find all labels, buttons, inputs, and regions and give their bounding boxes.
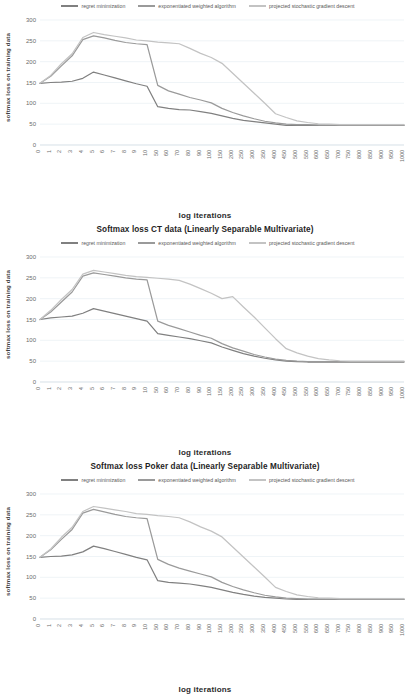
x-tick-label: 7 [110, 624, 116, 627]
x-tick-label: 850 [367, 624, 373, 633]
figure-3: Softmax loss Poker data (Linearly Separa… [0, 457, 410, 694]
legend-1: regret minimization exponentiated weight… [0, 0, 410, 12]
x-tick-label: 250 [238, 387, 244, 396]
x-tick-label: 8 [121, 387, 127, 390]
series-line-projected-stochastic-gradient-descent [40, 507, 404, 599]
x-tick-label: 100 [206, 150, 212, 159]
x-tick-label: 550 [303, 387, 309, 396]
y-tick-label: 0 [33, 616, 37, 622]
x-tick-label: 900 [378, 624, 384, 633]
y-tick-label: 0 [33, 142, 37, 148]
chart-canvas-1: 0501001502002503000123456789105060708090… [0, 12, 410, 210]
x-tick-label: 150 [217, 387, 223, 396]
x-tick-label: 200 [228, 624, 234, 633]
y-tick-label: 150 [26, 80, 37, 86]
legend-item-exponentiated-weighted-algorithm: exponentiated weighted algorithm [138, 240, 236, 246]
x-tick-label: 50 [153, 150, 159, 156]
x-tick-label: 10 [142, 150, 148, 156]
x-tick-label: 9 [131, 387, 137, 390]
x-tick-label: 500 [292, 387, 298, 396]
x-tick-label: 950 [388, 387, 394, 396]
legend-item-exponentiated-weighted-algorithm: exponentiated weighted algorithm [138, 3, 236, 9]
x-tick-label: 2 [56, 387, 62, 390]
series-line-exponentiated-weighted-algorithm [40, 273, 404, 362]
legend-item-projected-stochastic-gradient-descent: projected stochastic gradient descent [249, 240, 355, 246]
x-tick-label: 3 [67, 387, 73, 390]
series-line-exponentiated-weighted-algorithm [40, 509, 404, 599]
x-tick-label: 350 [260, 387, 266, 396]
legend-swatch-regret-minimization [61, 242, 78, 244]
legend-item-projected-stochastic-gradient-descent: projected stochastic gradient descent [249, 477, 355, 483]
series-line-projected-stochastic-gradient-descent [40, 33, 404, 125]
x-tick-label: 4 [78, 150, 84, 153]
y-tick-label: 200 [26, 59, 37, 65]
x-tick-label: 350 [260, 624, 266, 633]
chart-canvas-2: 0501001502002503000123456789105060708090… [0, 249, 410, 447]
x-tick-label: 10 [142, 387, 148, 393]
legend-label-exponentiated-weighted-algorithm: exponentiated weighted algorithm [158, 477, 236, 483]
x-tick-label: 500 [292, 150, 298, 159]
x-tick-label: 60 [163, 150, 169, 156]
x-tick-label: 450 [281, 624, 287, 633]
x-tick-label: 90 [196, 387, 202, 393]
series-line-regret-minimization [40, 72, 404, 125]
series-line-regret-minimization [40, 546, 404, 599]
plot-area-3: softmax loss on training data 0501001502… [0, 486, 410, 684]
x-tick-label: 8 [121, 624, 127, 627]
x-tick-label: 50 [153, 387, 159, 393]
legend-label-regret-minimization: regret minimization [81, 240, 125, 246]
y-tick-label: 50 [29, 121, 36, 127]
x-tick-label: 80 [185, 624, 191, 630]
x-tick-label: 1000 [399, 624, 405, 636]
plot-area-1: softmax loss on training data 0501001502… [0, 12, 410, 210]
y-tick-label: 200 [26, 296, 37, 302]
y-tick-label: 150 [26, 554, 37, 560]
x-tick-label: 800 [356, 387, 362, 396]
x-tick-label: 80 [185, 150, 191, 156]
x-tick-label: 0 [35, 387, 41, 390]
x-tick-label: 0 [35, 624, 41, 627]
x-tick-label: 5 [89, 624, 95, 627]
legend-3: regret minimization exponentiated weight… [0, 474, 410, 486]
x-tick-label: 0 [35, 150, 41, 153]
x-tick-label: 950 [388, 624, 394, 633]
x-tick-label: 600 [313, 624, 319, 633]
x-tick-label: 150 [217, 150, 223, 159]
x-tick-label: 550 [303, 624, 309, 633]
x-tick-label: 650 [324, 150, 330, 159]
legend-label-projected-stochastic-gradient-descent: projected stochastic gradient descent [269, 3, 355, 9]
x-tick-label: 7 [110, 150, 116, 153]
x-tick-label: 550 [303, 150, 309, 159]
x-tick-label: 60 [163, 387, 169, 393]
x-tick-label: 150 [217, 624, 223, 633]
x-tick-label: 300 [249, 150, 255, 159]
x-tick-label: 850 [367, 387, 373, 396]
legend-swatch-exponentiated-weighted-algorithm [138, 242, 155, 244]
x-tick-label: 850 [367, 150, 373, 159]
x-tick-label: 450 [281, 150, 287, 159]
x-tick-label: 750 [345, 150, 351, 159]
x-tick-label: 60 [163, 624, 169, 630]
y-tick-label: 300 [26, 254, 37, 260]
x-tick-label: 400 [271, 624, 277, 633]
x-tick-label: 100 [206, 624, 212, 633]
x-tick-label: 300 [249, 624, 255, 633]
y-tick-label: 50 [29, 595, 36, 601]
y-tick-label: 250 [26, 512, 37, 518]
x-tick-label: 3 [67, 150, 73, 153]
x-tick-label: 800 [356, 624, 362, 633]
legend-label-exponentiated-weighted-algorithm: exponentiated weighted algorithm [158, 240, 236, 246]
x-tick-label: 300 [249, 387, 255, 396]
legend-swatch-regret-minimization [61, 5, 78, 7]
x-tick-label: 10 [142, 624, 148, 630]
y-axis-title-1: softmax loss on training data [2, 12, 13, 142]
plot-area-2: softmax loss on training data 0501001502… [0, 249, 410, 447]
x-tick-label: 1000 [399, 387, 405, 399]
x-tick-label: 700 [335, 624, 341, 633]
legend-swatch-exponentiated-weighted-algorithm [138, 479, 155, 481]
figure-title-2: Softmax loss CT data (Linearly Separable… [0, 220, 410, 237]
y-tick-label: 200 [26, 533, 37, 539]
x-tick-label: 750 [345, 624, 351, 633]
x-tick-label: 5 [89, 150, 95, 153]
